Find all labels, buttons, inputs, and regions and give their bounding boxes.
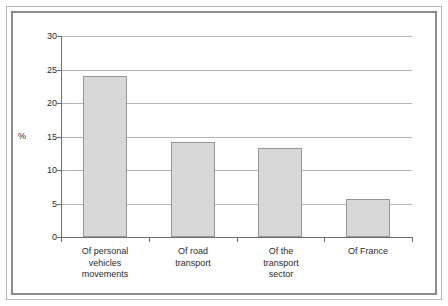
x-axis-category-label-line: vehicles [61,258,149,270]
gridline [61,36,412,37]
x-axis-tick-mark [324,238,325,242]
y-axis-tick-label: 15 [31,133,57,142]
y-axis-title: % [18,132,26,141]
x-axis-category-label-line: transport [149,258,237,270]
y-axis-tick-label: 20 [31,99,57,108]
bar[interactable] [171,142,215,237]
x-axis-category-label: Of thetransportsector [237,246,325,281]
y-axis-line [61,36,62,238]
y-axis-tick-label: 30 [31,32,57,41]
x-axis-tick-mark [149,238,150,242]
bar[interactable] [83,76,127,237]
x-axis-category-label-line: Of the [237,246,325,258]
x-axis-category-label-line: Of road [149,246,237,258]
x-axis-category-label: Of personalvehiclesmovements [61,246,149,281]
x-axis-category-labels: Of personalvehiclesmovementsOf roadtrans… [61,246,413,298]
y-axis-tick-label: 25 [31,66,57,75]
x-axis-category-label: Of France [324,246,412,258]
x-axis-category-label-line: Of France [324,246,412,258]
gridline [61,70,412,71]
y-axis-tick-label: 0 [31,233,57,242]
bar[interactable] [346,199,390,237]
x-axis-category-label-line: sector [237,269,325,281]
x-axis-category-label-line: transport [237,258,325,270]
y-axis-tick-label: 10 [31,166,57,175]
y-axis-tick-labels: 051015202530 [29,36,57,237]
x-axis-category-label: Of roadtransport [149,246,237,269]
y-axis-tick-label: 5 [31,200,57,209]
x-axis-category-label-line: Of personal [61,246,149,258]
bar[interactable] [258,148,302,237]
plot-area [61,36,412,237]
x-axis-tick-mark [61,238,62,242]
x-axis-tick-mark [412,238,413,242]
bar-chart: % 051015202530 Of personalvehiclesmoveme… [0,0,448,306]
x-axis-category-label-line: movements [61,269,149,281]
x-axis-tick-mark [237,238,238,242]
x-axis-line [61,237,413,238]
